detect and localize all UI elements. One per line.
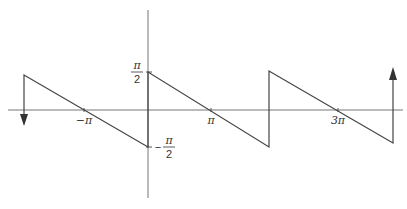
y-label-neg-pi-over-2: − π 2 [155, 134, 175, 160]
svg-text:−: − [155, 141, 161, 153]
y-label-pi-over-2: π 2 [131, 59, 143, 85]
svg-text:2: 2 [134, 73, 140, 85]
svg-text:π: π [132, 59, 141, 72]
sawtooth-graph: −π π 3π π 2 − π 2 [0, 0, 407, 209]
svg-text:π: π [164, 134, 173, 147]
svg-text:2: 2 [166, 148, 172, 160]
x-label-3pi: 3π [331, 114, 346, 127]
x-label-neg-pi: −π [76, 114, 93, 127]
arrow-down-icon [20, 114, 28, 126]
arrow-up-icon [389, 67, 397, 80]
x-label-pi: π [206, 114, 215, 127]
